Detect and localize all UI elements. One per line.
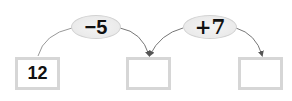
answer-box-2[interactable] [238, 57, 283, 90]
operation-minus-5: −5 [71, 15, 121, 39]
start-value-box: 12 [15, 57, 60, 90]
answer-box-1[interactable] [126, 57, 171, 90]
operation-plus-7: +7 [183, 15, 237, 39]
